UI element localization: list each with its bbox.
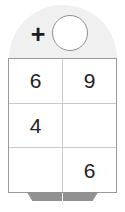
plus-operator-icon: + bbox=[27, 22, 49, 46]
grid-cell-r3c1[interactable] bbox=[9, 148, 63, 192]
left-foot-shape bbox=[22, 192, 62, 201]
grid-cell-r3c2[interactable]: 6 bbox=[63, 148, 116, 192]
grid-cell-r1c2[interactable]: 9 bbox=[63, 59, 116, 103]
right-foot-shape bbox=[63, 192, 103, 201]
answer-circle-input[interactable] bbox=[52, 15, 88, 51]
table-row: 6 9 bbox=[9, 59, 116, 104]
grid-cell-r2c1[interactable]: 4 bbox=[9, 104, 63, 148]
grid-cell-r2c2[interactable] bbox=[63, 104, 116, 148]
addition-puzzle-graphic: + 6 9 4 6 bbox=[0, 0, 125, 212]
grid-cell-r1c1[interactable]: 6 bbox=[9, 59, 63, 103]
digit-grid: 6 9 4 6 bbox=[8, 58, 117, 193]
table-row: 4 bbox=[9, 104, 116, 149]
table-row: 6 bbox=[9, 148, 116, 192]
